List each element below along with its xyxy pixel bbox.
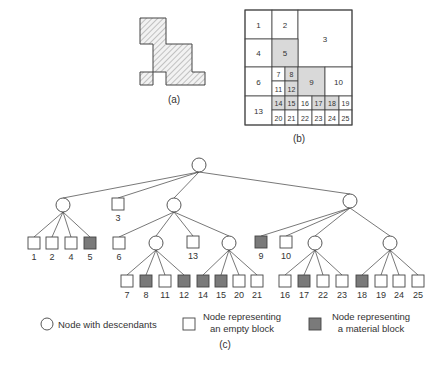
grid-cell-21: 21 [285, 110, 298, 125]
tree-node-label: 13 [188, 251, 198, 261]
tree-node-label: 18 [357, 290, 367, 300]
grid-cell-19: 19 [339, 96, 352, 110]
tree-node-internal [343, 194, 357, 208]
grid-cell-4: 4 [245, 39, 272, 67]
tree-node-label: 19 [376, 290, 386, 300]
grid-cell-1: 1 [245, 10, 272, 39]
grid-cell-22: 22 [298, 110, 312, 125]
grid-cell-label: 3 [323, 35, 328, 44]
tree-node-label: 12 [179, 290, 189, 300]
tree-node-label: 7 [124, 290, 129, 300]
grid-cell-label: 17 [315, 100, 323, 107]
tree-node-material-18 [356, 275, 368, 287]
tree-edge [229, 250, 239, 275]
grid-cell-label: 10 [334, 78, 343, 87]
grid-cell-label: 22 [301, 115, 309, 122]
tree-node-label: 6 [116, 252, 121, 262]
tree-node-empty-11 [159, 275, 171, 287]
tree-node-label: 17 [299, 290, 309, 300]
grid-cell-label: 6 [256, 78, 261, 87]
tree-edge [34, 212, 63, 237]
tree-edge [261, 208, 350, 236]
tree-node-internal [192, 158, 206, 172]
tree-node-label: 4 [68, 252, 73, 262]
legend-circle-label: Node with descendants [58, 319, 157, 330]
panel-b-grid: 1234567811129101314151617181920212223242… [245, 10, 352, 125]
grid-cell-23: 23 [312, 110, 325, 125]
tree-node-empty-25 [412, 275, 424, 287]
tree-node-label: 1 [31, 252, 36, 262]
tree-node-label: 2 [49, 252, 54, 262]
grid-cell-3: 3 [298, 10, 352, 67]
tree-edge [127, 250, 156, 275]
tree-edge [146, 250, 156, 275]
grid-cell-6: 6 [245, 67, 272, 96]
tree-node-material-15 [215, 275, 227, 287]
grid-cell-label: 13 [254, 107, 263, 116]
tree-node-label: 22 [318, 290, 328, 300]
caption-b: (b) [293, 133, 305, 144]
grid-cell-label: 2 [283, 21, 288, 30]
tree-node-label: 3 [115, 213, 120, 223]
legend-material-label-line1: Node representing [332, 311, 410, 322]
grid-cell-16: 16 [298, 96, 312, 110]
tree-node-internal [222, 236, 236, 250]
grid-cell-label: 15 [288, 100, 296, 107]
tree-node-internal [149, 236, 163, 250]
tree-node-label: 21 [252, 290, 262, 300]
tree-node-empty-21 [251, 275, 263, 287]
grid-cell-label: 8 [290, 71, 294, 78]
tree-edge [286, 208, 350, 236]
grid-cell-12: 12 [285, 81, 298, 96]
tree-node-label: 5 [87, 252, 92, 262]
tree-node-internal [383, 236, 397, 250]
tree-node-empty-19 [375, 275, 387, 287]
tree-node-label: 10 [281, 251, 291, 261]
tree-node-empty-3 [112, 198, 124, 210]
tree-edge [350, 208, 390, 236]
grid-cell-label: 9 [309, 78, 314, 87]
grid-cell-label: 16 [301, 100, 309, 107]
tree-node-material-8 [140, 275, 152, 287]
caption-c: (c) [219, 339, 231, 350]
tree-node-material-14 [197, 275, 209, 287]
tree-edge [52, 212, 63, 237]
tree-node-empty-7 [121, 275, 133, 287]
quadtree-figure: (a) 123456781112910131415161718192021222… [0, 0, 448, 367]
tree-node-empty-16 [279, 275, 291, 287]
grid-cell-2: 2 [272, 10, 298, 39]
tree-node-empty-20 [233, 275, 245, 287]
tree-edge [174, 212, 229, 236]
grid-cell-label: 19 [342, 100, 350, 107]
grid-cell-9: 9 [298, 67, 325, 96]
tree-node-label: 14 [198, 290, 208, 300]
grid-cell-label: 11 [275, 86, 282, 93]
grid-cell-label: 1 [256, 21, 261, 30]
legend-empty-label-line1: Node representing [203, 311, 281, 322]
legend-material-label-line2: a material block [338, 323, 405, 334]
legend: Node with descendants Node representing … [41, 311, 410, 334]
tree-node-internal [308, 236, 322, 250]
tree-edge [199, 172, 350, 194]
tree-node-label: 8 [143, 290, 148, 300]
tree-edge [174, 212, 193, 236]
tree-node-material-17 [298, 275, 310, 287]
tree-node-empty-23 [336, 275, 348, 287]
tree-edge [119, 212, 174, 237]
grid-cell-15: 15 [285, 96, 298, 110]
grid-cell-20: 20 [272, 110, 285, 125]
grid-cell-24: 24 [325, 110, 339, 125]
grid-cell-label: 21 [288, 115, 296, 122]
grid-cell-10: 10 [325, 67, 352, 96]
grid-cell-label: 14 [275, 100, 283, 107]
tree-edge [315, 208, 350, 236]
grid-cell-8: 8 [285, 67, 298, 81]
tree-edge [229, 250, 257, 275]
tree-node-empty-6 [113, 237, 125, 249]
legend-empty-label-line2: an empty block [210, 323, 274, 334]
tree-node-empty-13 [187, 236, 199, 248]
grid-cell-label: 25 [342, 115, 350, 122]
grid-cell-label: 4 [256, 49, 261, 58]
tree-edge [304, 250, 315, 275]
grid-cell-label: 18 [328, 100, 336, 107]
